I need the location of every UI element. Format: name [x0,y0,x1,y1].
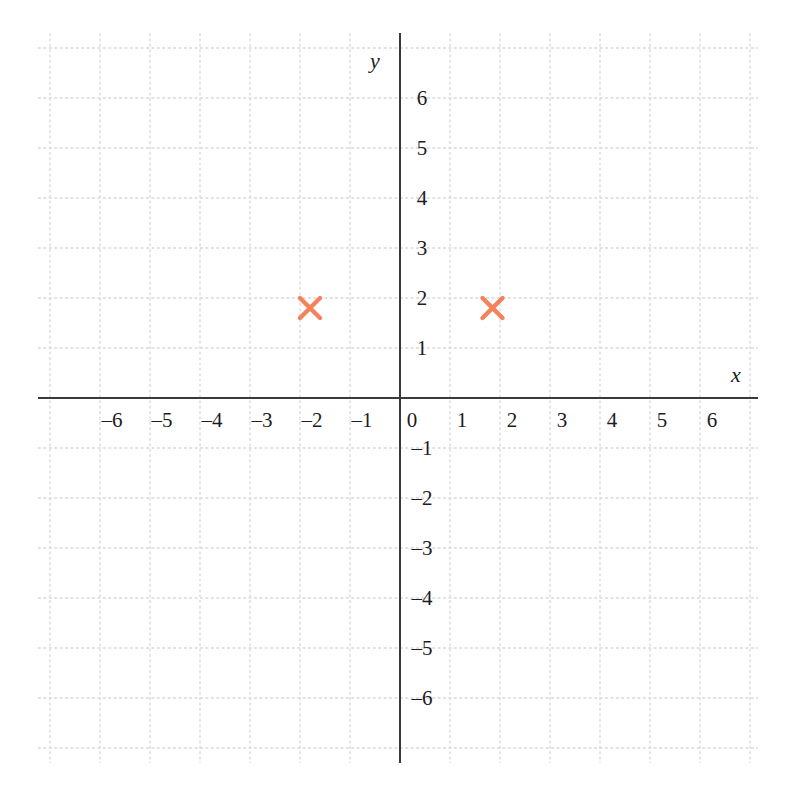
y-tick-label: 6 [417,86,428,110]
y-tick-label: –4 [411,586,434,610]
x-tick-label: 5 [657,408,668,432]
y-tick-label: 2 [417,286,428,310]
x-tick-label: 1 [457,408,468,432]
graph-canvas[interactable]: –6–5–4–3–2–1123456 654321–1–2–3–4–5–6 0 … [0,0,797,804]
origin-label: 0 [407,408,418,432]
x-tick-label: 4 [607,408,618,432]
coordinate-plane-figure: –6–5–4–3–2–1123456 654321–1–2–3–4–5–6 0 … [0,0,797,804]
y-tick-label: 1 [417,336,428,360]
x-tick-label: –3 [251,408,273,432]
plotted-point-marker[interactable] [483,298,503,318]
x-tick-label: –1 [351,408,373,432]
x-axis-name-label: x [730,362,741,387]
data-point-markers[interactable] [300,298,503,318]
y-tick-label: –5 [411,636,433,660]
x-tick-label: –5 [151,408,173,432]
plotted-point-marker[interactable] [300,298,320,318]
y-tick-label: 5 [417,136,428,160]
y-tick-label: –6 [411,686,433,710]
origin-label-group: 0 [407,408,418,432]
y-tick-label: 4 [417,186,428,210]
x-tick-label: 3 [557,408,568,432]
x-tick-label: –4 [201,408,224,432]
y-tick-label: –3 [411,536,433,560]
y-axis-name-label: y [368,48,380,73]
y-tick-label: –1 [411,436,433,460]
y-tick-label: –2 [411,486,433,510]
x-tick-label: –2 [301,408,323,432]
x-tick-label: 2 [507,408,518,432]
y-tick-label: 3 [417,236,428,260]
x-tick-label: –6 [101,408,123,432]
x-tick-label: 6 [707,408,718,432]
